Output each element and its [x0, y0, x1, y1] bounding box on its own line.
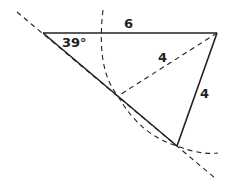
label-right-side: 4 [200, 86, 209, 101]
label-dashed-radius: 4 [158, 50, 167, 65]
label-angle: 39° [62, 35, 87, 50]
side-right [177, 33, 217, 146]
triangle-diagram: 6 39° 4 4 [0, 0, 228, 187]
label-top-side: 6 [124, 16, 133, 31]
